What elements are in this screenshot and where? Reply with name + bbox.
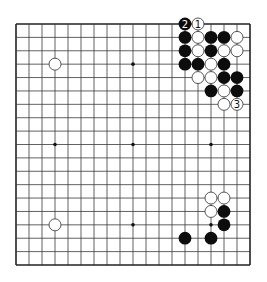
black-stone-icon [205,85,218,98]
star-point-icon [209,223,213,227]
white-stone [49,58,61,70]
black-stone [179,31,192,44]
black-stone [231,85,244,98]
black-stone-icon [218,58,231,71]
star-point-icon [131,62,135,66]
black-stone-icon [218,31,231,44]
black-stone [218,58,231,71]
white-stone: 1 [192,18,204,30]
black-stone-icon [179,232,192,245]
white-stone-icon [205,192,217,204]
white-stone [205,72,217,84]
black-stone [218,71,231,84]
white-stone-icon [49,58,61,70]
black-stone-icon [205,44,218,57]
black-stone [179,44,192,57]
black-stone-icon [179,44,192,57]
black-stone-icon [179,58,192,71]
white-stone-icon [49,219,61,231]
black-stone-icon [192,58,205,71]
black-stone-icon [205,31,218,44]
black-stone [205,85,218,98]
black-stone [205,44,218,57]
star-point-icon [53,143,57,147]
white-stone-icon [218,45,230,57]
black-stone [218,31,231,44]
white-stone-icon [218,98,230,110]
white-stone [231,45,243,57]
black-stone-icon [218,71,231,84]
white-stone [218,192,230,204]
black-stone [218,218,231,231]
white-stone [205,192,217,204]
white-stone-icon [192,45,204,57]
white-stone-icon [192,72,204,84]
black-stone [205,232,218,245]
white-stone-icon [218,192,230,204]
black-stone-icon [218,218,231,231]
star-point-icon [131,143,135,147]
white-stone-icon [205,72,217,84]
white-stone [205,58,217,70]
black-stone [218,205,231,218]
black-stone [205,31,218,44]
black-stone-icon [231,71,244,84]
star-point-icon [209,143,213,147]
white-stone [49,219,61,231]
white-stone [218,85,230,97]
white-stone-icon [192,31,204,43]
white-stone [205,205,217,217]
white-stone [218,98,230,110]
go-board: 213 [0,0,267,282]
move-number-label: 2 [182,19,188,30]
white-stone-icon [231,45,243,57]
black-stone-icon [218,205,231,218]
black-stone-icon [179,31,192,44]
white-stone [192,45,204,57]
white-stone [192,31,204,43]
white-stone-icon [218,85,230,97]
black-stone [192,58,205,71]
black-stone: 2 [179,18,192,31]
white-stone [218,45,230,57]
white-stone [192,72,204,84]
white-stone [231,31,243,43]
move-number-label: 3 [234,99,240,110]
white-stone-icon [205,58,217,70]
white-stone: 3 [231,98,243,110]
black-stone [231,71,244,84]
white-stone-icon [231,31,243,43]
black-stone [179,58,192,71]
white-stone-icon [205,205,217,217]
black-stone-icon [205,232,218,245]
black-stone [179,232,192,245]
move-number-label: 1 [195,19,201,30]
star-point-icon [131,223,135,227]
go-board-diagram: 213 [0,0,267,282]
black-stone-icon [231,85,244,98]
